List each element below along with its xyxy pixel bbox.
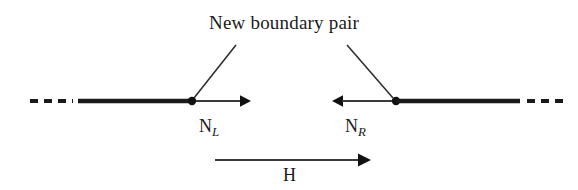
caption-leader-line-right: [347, 45, 393, 98]
label-right-normal-subscript: R: [358, 124, 366, 139]
label-right-normal: NR: [345, 117, 366, 139]
left-normal-arrow: [196, 95, 251, 107]
label-left-normal-base: N: [199, 116, 212, 136]
label-left-normal-subscript: L: [212, 124, 219, 139]
left-boundary-dot: [188, 97, 196, 105]
right-normal-arrow: [332, 95, 393, 107]
field-arrow-head: [358, 154, 371, 167]
label-field: H: [283, 166, 296, 184]
boundary-pair-diagram: New boundary pair NL NR H: [0, 0, 578, 190]
label-left-normal: NL: [199, 117, 219, 139]
caption-new-boundary-pair: New boundary pair: [209, 13, 359, 32]
right-normal-arrow-head: [332, 95, 343, 107]
left-normal-arrow-head: [240, 95, 251, 107]
caption-leader-line-left: [194, 45, 236, 98]
label-right-normal-base: N: [345, 116, 358, 136]
